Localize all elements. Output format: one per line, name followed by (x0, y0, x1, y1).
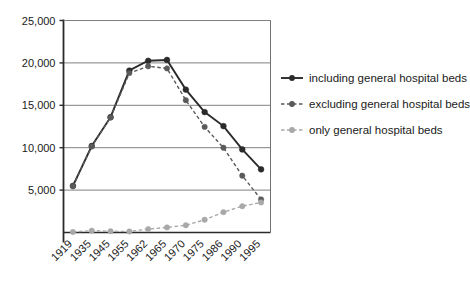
data-point (108, 229, 113, 234)
chart-legend: including general hospital bedsexcluding… (281, 72, 470, 136)
data-point (108, 115, 113, 120)
legend-marker-dot (289, 101, 295, 107)
line-chart: 5,00010,00015,00020,00025,000 1919193519… (0, 0, 470, 283)
legend-item-label: including general hospital beds (309, 72, 467, 84)
data-point (183, 98, 188, 103)
data-point (164, 57, 170, 63)
data-point (258, 166, 264, 172)
y-axis-tick-label: 15,000 (22, 99, 56, 111)
data-point (127, 229, 132, 234)
data-point (258, 200, 263, 205)
data-point (145, 226, 150, 231)
data-point (202, 124, 207, 129)
data-point (221, 209, 226, 214)
legend-item-label: excluding general hospital beds (309, 98, 470, 110)
y-axis-tick-label: 25,000 (22, 15, 56, 27)
data-point (164, 66, 169, 71)
data-point (183, 223, 188, 228)
data-point (164, 225, 169, 230)
data-point (89, 144, 94, 149)
legend-item-label: only general hospital beds (309, 124, 443, 136)
data-point (70, 184, 75, 189)
data-point (221, 145, 226, 150)
data-point (221, 123, 227, 129)
legend-marker-dot (289, 127, 295, 133)
data-point (202, 217, 207, 222)
chart-container: 5,00010,00015,00020,00025,000 1919193519… (0, 0, 470, 283)
data-point (183, 87, 189, 93)
data-point (239, 147, 245, 153)
y-axis-tick-label: 5,000 (28, 184, 56, 196)
data-point (145, 64, 150, 69)
data-point (240, 173, 245, 178)
data-point (127, 70, 132, 75)
data-point (202, 109, 208, 115)
legend-marker-dot (289, 75, 295, 81)
data-point (240, 204, 245, 209)
data-point (145, 58, 151, 64)
y-axis-tick-label: 20,000 (22, 57, 56, 69)
data-point (89, 228, 94, 233)
data-point (70, 229, 75, 234)
y-axis-tick-label: 10,000 (22, 142, 56, 154)
